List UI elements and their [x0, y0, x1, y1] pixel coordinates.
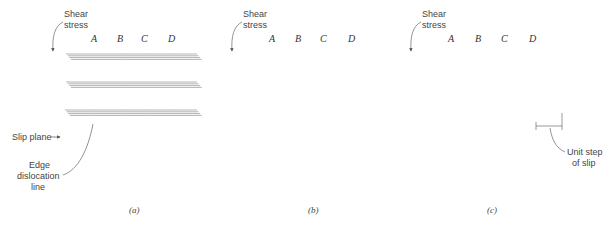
col-label-b-B: B [295, 33, 301, 44]
caption-a: (a) [129, 205, 140, 215]
dislocation-figure: Shear stress A B C D Slip plane Edge dis… [0, 0, 613, 226]
col-label-c-D: D [528, 33, 537, 44]
panel-a [65, 54, 202, 115]
unit-step-pointer [550, 128, 565, 152]
shear-label-b-2: stress [243, 20, 268, 30]
shear-label-a-1: Shear [64, 9, 88, 19]
col-label-a-B: B [117, 33, 123, 44]
edge-label-1: Edge [29, 160, 50, 170]
unit-step-label-2: of slip [572, 158, 596, 168]
shear-label-c-2: stress [422, 20, 447, 30]
caption-c: (c) [487, 205, 497, 215]
col-label-b-D: D [347, 33, 356, 44]
shear-arrow-c [411, 22, 421, 51]
col-label-a-A: A [90, 33, 98, 44]
edge-label-3: line [31, 182, 45, 192]
shear-arrow-b [232, 22, 242, 51]
col-label-a-D: D [167, 33, 176, 44]
edge-label-2: dislocation [17, 171, 60, 181]
edge-dislocation-pointer [63, 124, 93, 175]
col-label-c-B: B [475, 33, 481, 44]
col-label-c-A: A [447, 33, 455, 44]
shear-label-b-1: Shear [243, 9, 267, 19]
shear-label-c-1: Shear [422, 9, 446, 19]
shear-arrow-a [53, 22, 63, 51]
caption-b: (b) [308, 205, 319, 215]
col-label-c-C: C [501, 33, 508, 44]
col-label-a-C: C [141, 33, 148, 44]
unit-step-label-1: Unit step [567, 147, 603, 157]
col-label-b-C: C [320, 33, 327, 44]
slip-plane-label: Slip plane [12, 132, 52, 142]
shear-label-a-2: stress [64, 20, 89, 30]
col-label-b-A: A [268, 33, 276, 44]
